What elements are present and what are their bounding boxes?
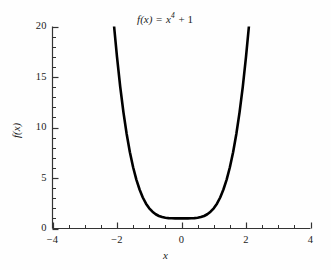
y-tick-label: 15 bbox=[7, 71, 47, 82]
x-tick-label: −2 bbox=[101, 234, 133, 245]
data-series-line bbox=[114, 27, 249, 219]
y-tick-label: 20 bbox=[7, 20, 47, 31]
x-axis-title: x bbox=[0, 249, 331, 261]
x-tick-label: 2 bbox=[230, 234, 262, 245]
y-tick-label: 0 bbox=[7, 222, 47, 233]
plot-area bbox=[0, 0, 331, 270]
x-tick-label: 0 bbox=[166, 234, 198, 245]
y-axis-title: f(x) bbox=[8, 113, 24, 147]
x-tick-label: 4 bbox=[295, 234, 327, 245]
y-tick-label: 5 bbox=[7, 172, 47, 183]
x-tick-label: −4 bbox=[37, 234, 69, 245]
x-axis-major-ticks bbox=[54, 223, 312, 229]
chart-figure: f(x) = x4 + 1 05101520 −4−2024 f(x) x bbox=[0, 0, 331, 270]
